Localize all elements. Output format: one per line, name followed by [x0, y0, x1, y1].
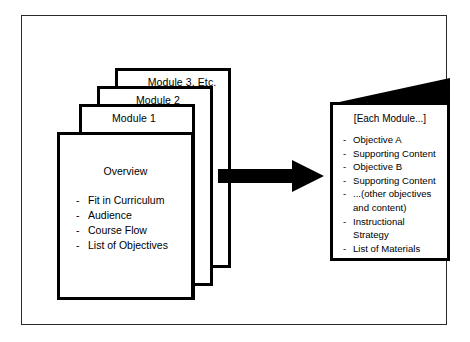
- overview-heading: Overview: [60, 165, 191, 177]
- list-item: - Fit in Curriculum: [76, 193, 194, 208]
- dash-marker: -: [343, 160, 353, 174]
- module-detail-bullet-list: - Objective A - Supporting Content - Obj…: [343, 133, 451, 255]
- list-item-label: Course Flow: [88, 223, 194, 238]
- list-item-continuation-label: and content): [353, 201, 451, 215]
- list-item-label: Supporting Content: [353, 147, 451, 161]
- list-item-label: Objective B: [353, 160, 451, 174]
- list-item-continuation-label: Strategy: [353, 228, 451, 242]
- list-item-continuation: and content): [343, 201, 451, 215]
- list-item-label: Supporting Content: [353, 174, 451, 188]
- dash-marker: -: [76, 223, 88, 238]
- list-item: - Supporting Content: [343, 147, 451, 161]
- folded-page-wedge-icon: [330, 78, 450, 104]
- list-item-label: Instructional: [353, 215, 451, 229]
- list-item: - Supporting Content: [343, 174, 451, 188]
- dash-marker: -: [76, 193, 88, 208]
- list-item-label: Fit in Curriculum: [88, 193, 194, 208]
- dash-marker: -: [343, 147, 353, 161]
- list-item: - Objective B: [343, 160, 451, 174]
- dash-marker: -: [76, 208, 88, 223]
- list-item: - ...(other objectives: [343, 187, 451, 201]
- list-item: - List of Objectives: [76, 238, 194, 253]
- dash-marker: -: [343, 133, 353, 147]
- list-item: - Course Flow: [76, 223, 194, 238]
- list-item-label: ...(other objectives: [353, 187, 451, 201]
- list-item: - Audience: [76, 208, 194, 223]
- dash-marker: -: [343, 215, 353, 229]
- dash-marker: -: [343, 242, 353, 256]
- overview-card: Overview - Fit in Curriculum - Audience …: [57, 132, 194, 300]
- diagram-canvas: Module 3, Etc. Module 2 Module 1 Overvie…: [0, 0, 470, 342]
- module-detail-heading: [Each Module...]: [333, 113, 447, 124]
- dash-marker: -: [343, 187, 353, 201]
- module-detail-card: [Each Module...] - Objective A - Support…: [330, 102, 450, 261]
- dash-marker: -: [76, 238, 88, 253]
- list-item-label: List of Objectives: [88, 238, 194, 253]
- overview-bullet-list: - Fit in Curriculum - Audience - Course …: [76, 193, 194, 253]
- list-item-label: Objective A: [353, 133, 451, 147]
- list-item: - Instructional: [343, 215, 451, 229]
- list-item: - List of Materials: [343, 242, 451, 256]
- diagram-outer-frame: Module 3, Etc. Module 2 Module 1 Overvie…: [21, 15, 447, 325]
- list-item-label: List of Materials: [353, 242, 451, 256]
- right-arrow-icon: [218, 160, 324, 192]
- module-card-1-label: Module 1: [82, 112, 186, 124]
- list-item-continuation: Strategy: [343, 228, 451, 242]
- list-item: - Objective A: [343, 133, 451, 147]
- dash-marker: -: [343, 174, 353, 188]
- list-item-label: Audience: [88, 208, 194, 223]
